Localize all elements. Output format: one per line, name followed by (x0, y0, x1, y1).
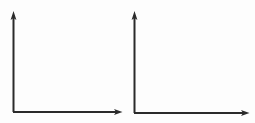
right-axes-group (132, 11, 250, 116)
axes-figure (0, 0, 255, 123)
left-axes-group (11, 11, 123, 115)
axes-canvas (0, 0, 255, 123)
